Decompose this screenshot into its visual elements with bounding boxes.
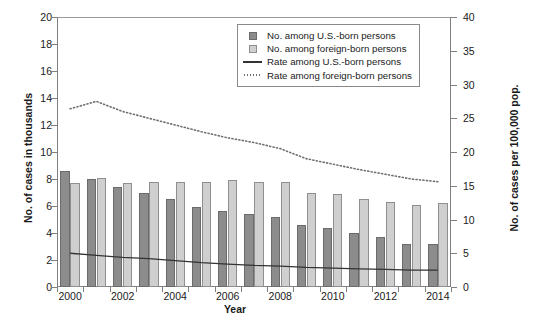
line-rate-us-born xyxy=(70,253,438,270)
legend-key-foreign-born xyxy=(243,42,262,55)
legend-line-solid-icon xyxy=(243,61,262,63)
legend: No. among U.S.-born personsNo. among for… xyxy=(237,24,420,87)
legend-swatch-us-born-icon xyxy=(249,32,257,40)
legend-key-us-born xyxy=(243,29,262,42)
legend-item: Rate among U.S.-born persons xyxy=(243,55,412,68)
legend-key-rate-foreign-born xyxy=(243,69,262,82)
legend-item: Rate among foreign-born persons xyxy=(243,69,412,82)
tuberculosis-cases-chart: No. of cases in thousands No. of cases p… xyxy=(0,0,539,319)
legend-swatch-foreign-born-icon xyxy=(249,45,257,53)
legend-item-label: No. among foreign-born persons xyxy=(267,42,406,55)
legend-item: No. among foreign-born persons xyxy=(243,42,412,55)
legend-item-label: No. among U.S.-born persons xyxy=(267,29,396,42)
legend-item-label: Rate among foreign-born persons xyxy=(267,69,412,82)
legend-line-dotted-icon xyxy=(243,74,262,76)
legend-item-label: Rate among U.S.-born persons xyxy=(267,55,401,68)
legend-item: No. among U.S.-born persons xyxy=(243,29,412,42)
line-rate-foreign-born xyxy=(70,101,438,181)
legend-key-rate-us-born xyxy=(243,55,262,68)
